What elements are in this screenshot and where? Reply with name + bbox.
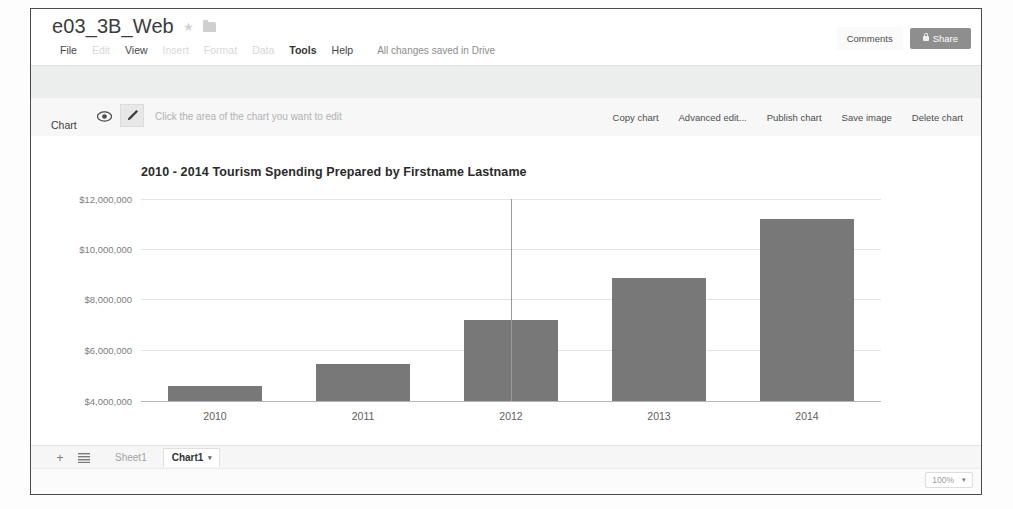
- x-axis-tick-label: 2013: [585, 410, 733, 422]
- bar-series: 2010 2011 2012 2013: [141, 199, 881, 401]
- copy-chart-button[interactable]: Copy chart: [604, 107, 668, 128]
- bar-2014[interactable]: [760, 219, 854, 401]
- spreadsheet-app-frame: dssfname lastname gr@gmail.com▾ e03_3B_W…: [30, 8, 982, 495]
- add-sheet-icon[interactable]: +: [51, 450, 69, 466]
- chevron-down-icon: ▾: [962, 476, 966, 484]
- lock-icon: [923, 36, 929, 41]
- star-icon[interactable]: ★: [183, 20, 194, 34]
- y-axis-tick-label: $10,000,000: [79, 244, 132, 255]
- share-button[interactable]: Share: [910, 28, 971, 49]
- menu-item-tools[interactable]: Tools: [282, 42, 324, 58]
- bar-slot[interactable]: 2010: [141, 199, 289, 401]
- x-axis-tick-label: 2010: [141, 410, 289, 422]
- all-sheets-icon[interactable]: [75, 450, 93, 466]
- bar-2011[interactable]: [316, 364, 410, 401]
- chart-plot-area: $12,000,000 $10,000,000 $8,000,000 $6,00…: [141, 199, 881, 402]
- header-actions: Comments Share: [837, 27, 971, 50]
- folder-icon[interactable]: [203, 22, 216, 32]
- menu-item-file[interactable]: File: [53, 42, 85, 58]
- menu-item-insert[interactable]: Insert: [156, 42, 197, 58]
- x-axis-tick-label: 2011: [289, 410, 437, 422]
- toolbar-band: [31, 65, 981, 100]
- sheet-tab-chart1[interactable]: Chart1 ▾: [163, 448, 221, 467]
- bar-slot[interactable]: 2014: [733, 199, 881, 401]
- x-axis-line: $4,000,000: [141, 401, 881, 402]
- x-axis-tick-label: 2014: [733, 410, 881, 422]
- zoom-control[interactable]: 100% ▾: [925, 472, 973, 488]
- sheet-tab-bar: + Sheet1 Chart1 ▾: [31, 445, 981, 469]
- menu-bar: File Edit View Insert Format Data Tools …: [53, 42, 495, 58]
- bar-2010[interactable]: [168, 386, 262, 401]
- bar-slot[interactable]: 2013: [585, 199, 733, 401]
- document-header: e03_3B_Web ★ File Edit View Insert Forma…: [31, 9, 981, 65]
- bar-2013[interactable]: [612, 278, 706, 401]
- chart-toolbar-actions: Copy chart Advanced edit... Publish char…: [604, 107, 972, 128]
- menu-item-view[interactable]: View: [118, 42, 156, 58]
- chart-panel-label: Chart: [51, 119, 77, 131]
- menu-item-edit[interactable]: Edit: [85, 42, 118, 58]
- advanced-edit-button[interactable]: Advanced edit...: [670, 107, 756, 128]
- document-title[interactable]: e03_3B_Web: [52, 15, 174, 38]
- bar-slot[interactable]: 2011: [289, 199, 437, 401]
- delete-chart-button[interactable]: Delete chart: [903, 107, 972, 128]
- bar-slot[interactable]: 2012: [437, 199, 585, 401]
- status-bar: 100% ▾: [31, 468, 981, 494]
- sheet-tab-chart1-label: Chart1: [172, 452, 204, 463]
- x-axis-tick-label: 2012: [437, 410, 585, 422]
- y-axis-tick-label: $6,000,000: [84, 345, 132, 356]
- save-status-text: All changes saved in Drive: [377, 45, 495, 56]
- y-axis-tick-label: $4,000,000: [84, 396, 132, 407]
- chart-canvas[interactable]: 2010 - 2014 Tourism Spending Prepared by…: [31, 136, 981, 449]
- y-axis-tick-label: $12,000,000: [79, 194, 132, 205]
- eye-icon[interactable]: [93, 106, 115, 126]
- save-image-button[interactable]: Save image: [833, 107, 901, 128]
- y-axis-tick-label: $8,000,000: [84, 294, 132, 305]
- sheet-tab-sheet1[interactable]: Sheet1: [107, 448, 155, 467]
- pencil-icon[interactable]: [120, 104, 144, 127]
- menu-item-format[interactable]: Format: [197, 42, 245, 58]
- screenshot-root: dssfname lastname gr@gmail.com▾ e03_3B_W…: [0, 0, 1013, 509]
- menu-item-help[interactable]: Help: [325, 42, 362, 58]
- comments-button[interactable]: Comments: [837, 27, 903, 50]
- zoom-level-label: 100%: [932, 475, 954, 485]
- chart-edit-hint: Click the area of the chart you want to …: [155, 111, 342, 122]
- share-button-label: Share: [933, 33, 958, 44]
- bar-2012[interactable]: [464, 320, 558, 401]
- menu-item-data[interactable]: Data: [245, 42, 282, 58]
- chart-title: 2010 - 2014 Tourism Spending Prepared by…: [141, 165, 527, 179]
- chevron-down-icon: ▾: [208, 454, 212, 462]
- publish-chart-button[interactable]: Publish chart: [758, 107, 831, 128]
- chart-editor-toolbar: Chart Click the area of the chart you wa…: [31, 98, 981, 137]
- document-title-row: e03_3B_Web ★: [52, 15, 216, 38]
